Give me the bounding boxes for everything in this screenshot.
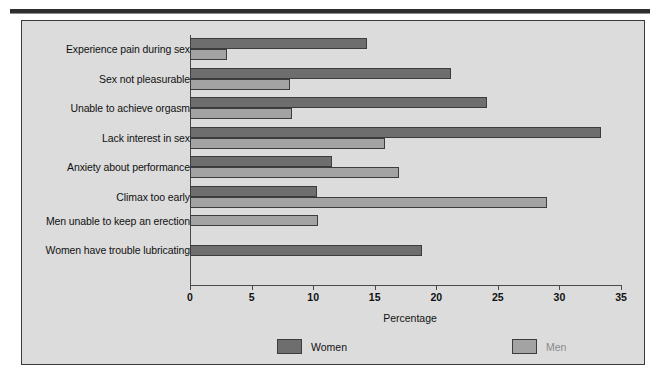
- bar-women: [190, 38, 367, 49]
- chart-panel: 05101520253035 Experience pain during se…: [21, 20, 645, 365]
- x-tick-label: 5: [249, 291, 255, 303]
- bar-women: [190, 68, 451, 79]
- bar-men: [190, 79, 290, 90]
- bar-men: [190, 108, 292, 119]
- category-label: Men unable to keep an erection: [46, 215, 190, 227]
- category-label: Climax too early: [116, 191, 190, 203]
- x-axis-title-text: Percentage: [383, 312, 437, 324]
- legend-label-men: Men: [546, 341, 566, 353]
- x-tick: [190, 285, 191, 290]
- bar-women: [190, 127, 601, 138]
- category-label: Unable to achieve orgasm: [70, 102, 190, 114]
- bar-women: [190, 97, 487, 108]
- x-tick-label: 10: [307, 291, 319, 303]
- category-label: Women have trouble lubricating: [46, 244, 190, 256]
- legend-item-men[interactable]: Men: [512, 339, 566, 354]
- plot-area: 05101520253035 Experience pain during se…: [22, 21, 646, 366]
- x-tick-label: 15: [369, 291, 381, 303]
- legend-label-women: Women: [311, 341, 347, 353]
- category-label: Experience pain during sex: [66, 43, 190, 55]
- legend-item-women[interactable]: Women: [277, 339, 347, 354]
- x-tick: [375, 285, 376, 290]
- bar-men: [190, 215, 318, 226]
- x-tick: [436, 285, 437, 290]
- x-tick-label: 30: [554, 291, 566, 303]
- category-label: Anxiety about performance: [67, 161, 190, 173]
- legend-swatch-women: [277, 339, 302, 354]
- bar-men: [190, 197, 547, 208]
- x-tick: [313, 285, 314, 290]
- top-divider-rule: [10, 9, 650, 14]
- legend-swatch-men: [512, 339, 537, 354]
- figure-root: 05101520253035 Experience pain during se…: [0, 0, 657, 380]
- bar-men: [190, 167, 399, 178]
- x-tick-label: 35: [615, 291, 627, 303]
- x-axis-title: Percentage: [22, 312, 646, 324]
- bar-men: [190, 49, 227, 60]
- x-tick: [559, 285, 560, 290]
- bar-men: [190, 138, 385, 149]
- x-tick: [621, 285, 622, 290]
- x-tick: [252, 285, 253, 290]
- chart-legend: WomenMen: [22, 339, 646, 361]
- bar-women: [190, 156, 332, 167]
- category-label: Sex not pleasurable: [99, 73, 190, 85]
- x-tick-label: 20: [430, 291, 442, 303]
- x-axis-line: [190, 285, 621, 286]
- x-tick-label: 25: [492, 291, 504, 303]
- x-tick-label: 0: [187, 291, 193, 303]
- bar-women: [190, 245, 422, 256]
- category-label: Lack interest in sex: [102, 132, 190, 144]
- x-tick: [498, 285, 499, 290]
- bar-women: [190, 186, 317, 197]
